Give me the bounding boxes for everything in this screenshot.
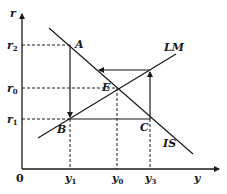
- r2-label: r2: [7, 39, 18, 53]
- r1-label: r1: [7, 113, 18, 127]
- y0-label: y0: [111, 172, 123, 186]
- point-b-label: B: [56, 123, 66, 136]
- origin-label: 0: [16, 172, 24, 185]
- point-a-label: A: [74, 38, 84, 51]
- lm-label: LM: [163, 41, 185, 54]
- y-axis-label: r: [10, 7, 17, 20]
- y3-label: y3: [144, 172, 156, 186]
- r0-label: r0: [7, 82, 18, 96]
- guide-lines: [22, 45, 150, 169]
- is-label: IS: [162, 137, 176, 150]
- y1-label: y1: [64, 172, 76, 186]
- x-axis-label: y: [193, 172, 202, 185]
- is-lm-diagram: r y 0 r2 r0 r1 y1 y0 y3 LM IS A B C E: [0, 0, 227, 194]
- point-e-label: E: [101, 81, 111, 94]
- point-c-label: C: [140, 121, 149, 134]
